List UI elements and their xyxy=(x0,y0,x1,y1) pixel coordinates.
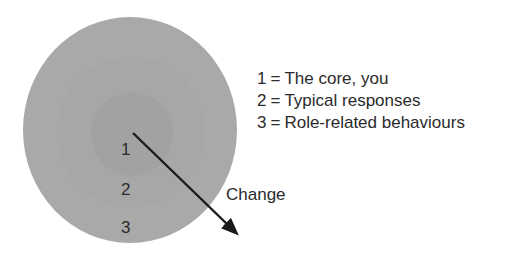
legend-item: 1=The core, you xyxy=(257,68,465,90)
legend-separator: = xyxy=(266,69,284,88)
legend-label: Role-related behaviours xyxy=(284,113,465,132)
legend: 1=The core, you 2=Typical responses 3=Ro… xyxy=(257,68,465,134)
legend-label: Typical responses xyxy=(284,91,420,110)
diagram-canvas: 1 2 3 Change 1=The core, you 2=Typical r… xyxy=(0,0,521,256)
ring-number-1: 1 xyxy=(121,141,130,158)
legend-separator: = xyxy=(266,113,284,132)
legend-label: The core, you xyxy=(284,69,388,88)
ring-number-2: 2 xyxy=(121,181,130,198)
core-ring xyxy=(91,92,173,176)
legend-item: 2=Typical responses xyxy=(257,90,465,112)
change-label: Change xyxy=(226,186,286,203)
ring-number-3: 3 xyxy=(121,219,130,236)
legend-item: 3=Role-related behaviours xyxy=(257,112,465,134)
legend-separator: = xyxy=(266,91,284,110)
